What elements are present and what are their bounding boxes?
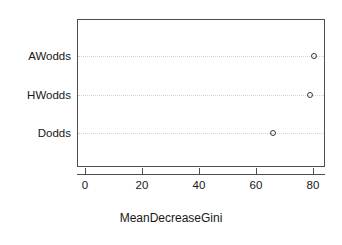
x-tick-mark-0 <box>85 168 86 175</box>
x-axis-line <box>77 174 325 175</box>
category-label-hwodds: HWodds <box>27 89 71 101</box>
category-label-dodds: Dodds <box>38 127 71 139</box>
x-tick-label-80: 80 <box>293 179 333 192</box>
x-tick-mark-40 <box>199 168 200 175</box>
x-tick-mark-60 <box>256 168 257 175</box>
x-tick-label-20: 20 <box>122 179 162 192</box>
gridline-row-2 <box>78 133 324 134</box>
variable-importance-dotchart: AWodds HWodds Dodds 0 20 40 60 80 MeanDe… <box>0 0 342 245</box>
plot-area-frame <box>77 19 325 167</box>
x-tick-label-60: 60 <box>236 179 276 192</box>
x-tick-mark-80 <box>313 168 314 175</box>
x-tick-label-0: 0 <box>65 179 105 192</box>
category-label-awodds: AWodds <box>28 50 71 62</box>
gridline-row-0 <box>78 56 324 57</box>
x-tick-mark-20 <box>142 168 143 175</box>
x-axis-title: MeanDecreaseGini <box>0 211 342 225</box>
gridline-row-1 <box>78 95 324 96</box>
x-tick-label-40: 40 <box>179 179 219 192</box>
